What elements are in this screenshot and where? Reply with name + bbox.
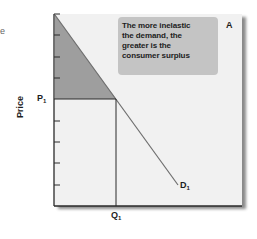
annotation-box: The more inelastic the demand, the great… xyxy=(118,17,218,75)
quantity-q1-label: Q1 xyxy=(111,210,121,221)
annotation-line: the demand, the xyxy=(122,31,214,41)
annotation-line: The more inelastic xyxy=(122,21,214,31)
price-p1-label: P1 xyxy=(37,93,46,104)
demand-curve-label: D1 xyxy=(180,180,190,191)
y-axis-label: Price xyxy=(15,92,25,122)
annotation-line: consumer surplus xyxy=(122,51,214,61)
annotation-line: greater is the xyxy=(122,41,214,51)
panel-label: A xyxy=(226,20,233,30)
